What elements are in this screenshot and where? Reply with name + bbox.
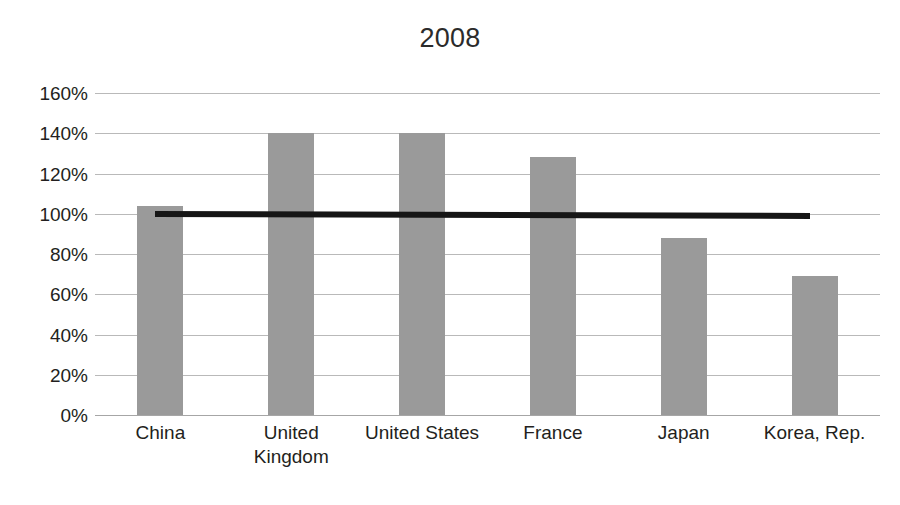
x-tick-label: United States — [357, 421, 488, 445]
bar — [137, 206, 183, 415]
gridline-140pct — [95, 133, 880, 134]
y-tick-label: 160% — [14, 84, 88, 103]
y-tick-label: 80% — [14, 245, 88, 264]
gridline-160pct — [95, 93, 880, 94]
y-tick-label: 140% — [14, 124, 88, 143]
bar — [399, 133, 445, 415]
y-axis-tick-labels: 0%20%40%60%80%100%120%140%160% — [8, 93, 88, 415]
gridline-0pct — [95, 415, 880, 416]
gridline-60pct — [95, 294, 880, 295]
gridline-80pct — [95, 254, 880, 255]
x-tick-label: France — [488, 421, 619, 445]
chart-container: 2008 0%20%40%60%80%100%120%140%160% Chin… — [0, 0, 900, 505]
bar — [530, 157, 576, 415]
gridline-40pct — [95, 335, 880, 336]
x-tick-label: Korea, Rep. — [749, 421, 880, 445]
y-tick-label: 60% — [14, 285, 88, 304]
plot-area — [95, 93, 880, 415]
bar — [268, 133, 314, 415]
y-tick-label: 100% — [14, 205, 88, 224]
x-tick-label: United Kingdom — [226, 421, 357, 469]
y-tick-label: 40% — [14, 326, 88, 345]
gridline-120pct — [95, 174, 880, 175]
y-tick-label: 120% — [14, 165, 88, 184]
bar — [792, 276, 838, 415]
x-tick-label: Japan — [618, 421, 749, 445]
x-tick-label: China — [95, 421, 226, 445]
x-axis-tick-labels: ChinaUnited KingdomUnited StatesFranceJa… — [95, 421, 880, 491]
chart-title: 2008 — [0, 22, 900, 54]
bar — [661, 238, 707, 415]
gridline-20pct — [95, 375, 880, 376]
reference-line — [155, 211, 810, 219]
y-tick-label: 20% — [14, 366, 88, 385]
y-tick-label: 0% — [14, 406, 88, 425]
